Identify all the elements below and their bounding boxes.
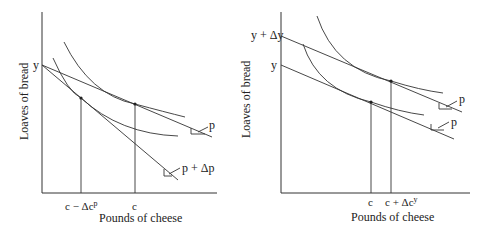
left-panel: y c − Δcp c Pounds of cheese Loaves of b… xyxy=(17,12,217,225)
right-budget-line-low xyxy=(281,65,454,139)
right-panel: y + Δy y c c + Δcy Pounds of cheese Loav… xyxy=(239,12,470,224)
diagram-canvas: y c − Δcp c Pounds of cheese Loaves of b… xyxy=(0,0,486,234)
left-budget-label-p: p xyxy=(209,118,215,132)
right-label-leader-low xyxy=(438,122,449,128)
left-indifference-curve-low xyxy=(53,58,178,136)
right-label-leader-high xyxy=(446,101,457,107)
right-budget-label-p-high: p xyxy=(459,92,465,106)
right-y-tick-y-plus-dy: y + Δy xyxy=(251,28,283,42)
right-x-tick-c-plus-dc: c + Δcy xyxy=(385,195,418,208)
right-tangent-point-old xyxy=(369,100,372,103)
right-indifference-curve-low xyxy=(303,44,424,115)
right-slope-triangle-low xyxy=(431,124,444,130)
right-indifference-curve-high xyxy=(317,16,443,93)
left-label-leader-p xyxy=(198,127,208,132)
left-indifference-curve-high xyxy=(64,42,185,117)
left-budget-line-p-plus-dp xyxy=(42,65,178,180)
right-x-axis-label: Pounds of cheese xyxy=(351,210,434,224)
right-tangent-point-new xyxy=(389,79,392,82)
right-y-tick-y: y xyxy=(271,58,277,72)
right-budget-label-p-low: p xyxy=(451,115,457,129)
left-tangent-point-new xyxy=(79,96,82,99)
left-y-axis-label: Loaves of bread xyxy=(17,63,31,140)
right-x-tick-c: c xyxy=(368,196,373,208)
left-y-tick-y: y xyxy=(33,58,39,72)
left-slope-triangle-p-plus-dp xyxy=(164,169,172,176)
right-slope-triangle-high xyxy=(439,103,452,109)
right-y-axis-label: Loaves of bread xyxy=(239,61,253,138)
left-x-tick-c-minus-dc: c − Δcp xyxy=(65,199,98,212)
left-tangent-point-old xyxy=(133,102,136,105)
left-x-axis-label: Pounds of cheese xyxy=(99,211,182,225)
left-label-leader-p-plus-dp xyxy=(169,168,180,174)
left-budget-label-p-plus-dp: p + Δp xyxy=(182,161,214,175)
